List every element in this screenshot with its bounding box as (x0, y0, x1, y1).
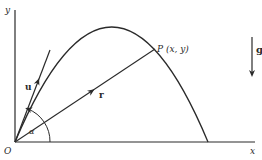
gravity-g-label: g (256, 44, 262, 55)
velocity-u-label: u (25, 82, 32, 92)
position-r-label: r (99, 90, 104, 100)
origin-label: O (4, 146, 12, 156)
position-vector-r (15, 49, 155, 142)
angle-alpha-label: α (29, 127, 35, 136)
point-p-label: P (x, y) (156, 44, 189, 54)
y-axis-label: y (4, 5, 11, 15)
projectile-diagram: y x O P (x, y) u r g α (0, 0, 262, 160)
x-axis-label: x (250, 146, 255, 156)
